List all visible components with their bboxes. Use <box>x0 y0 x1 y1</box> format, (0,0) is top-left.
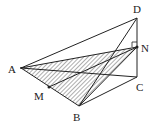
label-C: C <box>136 81 143 93</box>
point-A <box>20 67 22 69</box>
label-B: B <box>73 111 80 123</box>
label-A: A <box>8 63 16 75</box>
label-M: M <box>34 90 44 102</box>
point-N <box>136 46 139 49</box>
label-D: D <box>133 3 141 15</box>
point-M <box>48 86 51 89</box>
label-N: N <box>141 42 149 54</box>
tetrahedron-diagram: D N C A M B <box>0 0 150 126</box>
